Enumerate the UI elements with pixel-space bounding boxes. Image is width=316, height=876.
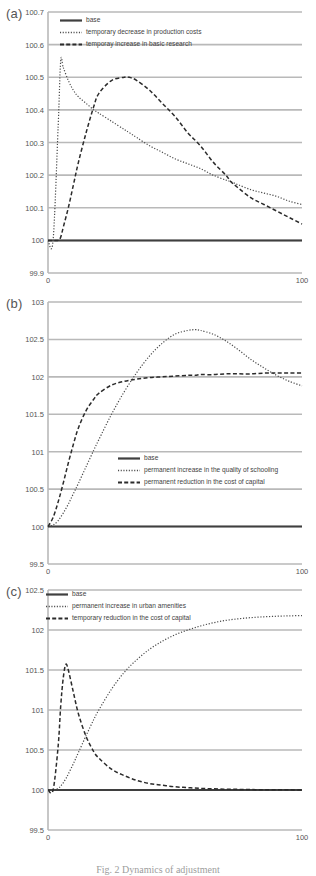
- panel-b-plot-area: 103 102.5 102 101.5 101 100.5 100 99.5 0…: [48, 302, 302, 564]
- panel-b-xtick-min: 0: [46, 567, 50, 576]
- panel-a-ytick: 100.1: [25, 203, 44, 212]
- panel-a-ytick: 100.5: [25, 73, 44, 82]
- legend-label: base: [72, 591, 86, 598]
- legend-label: permanent increase in urban amenities: [72, 603, 186, 610]
- legend-item: permanent increase in the quality of sch…: [118, 464, 278, 476]
- panel-b-ytick: 100: [31, 522, 44, 531]
- legend-swatch-dotted: [46, 603, 68, 610]
- legend-swatch-dashed: [118, 479, 140, 486]
- panel-c-plot-area: 102.5 102 101.5 101 100.5 100 99.5 0 100: [48, 590, 302, 830]
- legend-label: temporary decrease in production costs: [86, 29, 201, 36]
- panel-a-chart: [48, 12, 302, 273]
- panel-c: (c) 102.5 102 101.5 101 100.5 100 99.5 0…: [0, 582, 316, 850]
- panel-c-ytick: 100.5: [25, 746, 44, 755]
- legend-item: base: [46, 588, 191, 600]
- panel-b: (b) 103 102.5 102 101.5 101 100.5 100 99…: [0, 292, 316, 582]
- legend-item: temporary reduction in the cost of capit…: [46, 612, 191, 624]
- panel-a-ytick: 100.4: [25, 105, 44, 114]
- panel-c-ytick: 101.5: [25, 665, 44, 674]
- legend-label: temporary reduction in the cost of capit…: [72, 615, 191, 622]
- panel-c-ytick: 102: [31, 626, 44, 635]
- panel-b-xtick-max: 100: [296, 567, 309, 576]
- panel-a-legend: base temporary decrease in production co…: [60, 14, 201, 50]
- legend-item: base: [118, 452, 278, 464]
- panel-a: (a) 100.7 100.6 100.5 100.4 100.3 100.2 …: [0, 0, 316, 292]
- legend-item: temporay increase in basic research: [60, 38, 201, 50]
- panel-a-label: (a): [6, 6, 23, 21]
- legend-item: temporary decrease in production costs: [60, 26, 201, 38]
- legend-swatch-dashed: [46, 615, 68, 622]
- panel-a-xtick-max: 100: [296, 276, 309, 285]
- panel-b-ytick: 102.5: [25, 335, 44, 344]
- legend-item: base: [60, 14, 201, 26]
- legend-item: permanent increase in urban amenities: [46, 600, 191, 612]
- figure-dynamics-of-adjustment: (a) 100.7 100.6 100.5 100.4 100.3 100.2 …: [0, 0, 316, 876]
- legend-swatch-solid: [46, 591, 68, 598]
- legend-label: base: [144, 455, 158, 462]
- legend-label: permanent reduction in the cost of capit…: [144, 479, 265, 486]
- panel-c-xtick-min: 0: [46, 833, 50, 842]
- legend-item: permanent reduction in the cost of capit…: [118, 476, 278, 488]
- panel-b-ytick: 102: [31, 372, 44, 381]
- panel-b-ytick: 100.5: [25, 485, 44, 494]
- panel-a-ytick: 100.6: [25, 40, 44, 49]
- panel-b-chart: [48, 302, 302, 564]
- panel-c-chart: [48, 590, 302, 830]
- panel-c-ytick: 102.5: [25, 586, 44, 595]
- panel-c-xtick-max: 100: [296, 833, 309, 842]
- panel-a-plot-area: 100.7 100.6 100.5 100.4 100.3 100.2 100.…: [48, 12, 302, 273]
- legend-swatch-dotted: [60, 29, 82, 36]
- panel-c-ytick: 99.5: [29, 826, 44, 835]
- panel-c-ytick: 100: [31, 785, 44, 794]
- panel-b-ytick: 99.5: [29, 560, 44, 569]
- legend-swatch-dotted: [118, 467, 140, 474]
- figure-caption: Fig. 2 Dynamics of adjustment: [0, 864, 316, 876]
- panel-c-label: (c): [6, 584, 22, 599]
- legend-label: base: [86, 17, 100, 24]
- panel-c-ytick: 101: [31, 706, 44, 715]
- panel-b-ytick: 103: [31, 298, 44, 307]
- panel-b-ytick: 101.5: [25, 410, 44, 419]
- panel-c-legend: base permanent increase in urban ameniti…: [46, 588, 191, 624]
- panel-a-ytick: 100.2: [25, 171, 44, 180]
- legend-swatch-dashed: [60, 41, 82, 48]
- panel-a-xtick-min: 0: [46, 276, 50, 285]
- panel-b-ytick: 101: [31, 447, 44, 456]
- panel-b-label: (b): [6, 296, 23, 311]
- panel-b-legend: base permanent increase in the quality o…: [118, 452, 278, 488]
- panel-a-ytick: 100.3: [25, 138, 44, 147]
- panel-a-ytick: 100.7: [25, 8, 44, 17]
- panel-a-ytick: 100: [31, 236, 44, 245]
- legend-swatch-solid: [118, 455, 140, 462]
- legend-label: permanent increase in the quality of sch…: [144, 467, 278, 474]
- panel-a-ytick: 99.9: [29, 269, 44, 278]
- legend-label: temporay increase in basic research: [86, 41, 192, 48]
- legend-swatch-solid: [60, 17, 82, 24]
